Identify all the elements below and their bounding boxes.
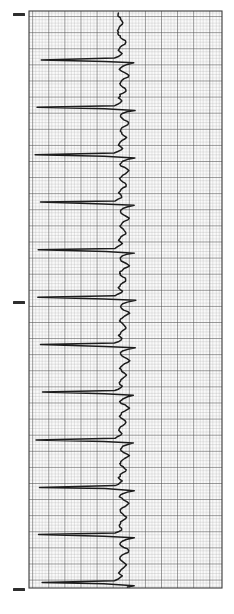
ecg-strip-container — [0, 0, 234, 614]
calibration-tick-middle — [13, 301, 25, 304]
calibration-tick-bottom — [13, 588, 25, 591]
ecg-canvas — [0, 0, 234, 614]
calibration-tick-top — [13, 13, 25, 16]
